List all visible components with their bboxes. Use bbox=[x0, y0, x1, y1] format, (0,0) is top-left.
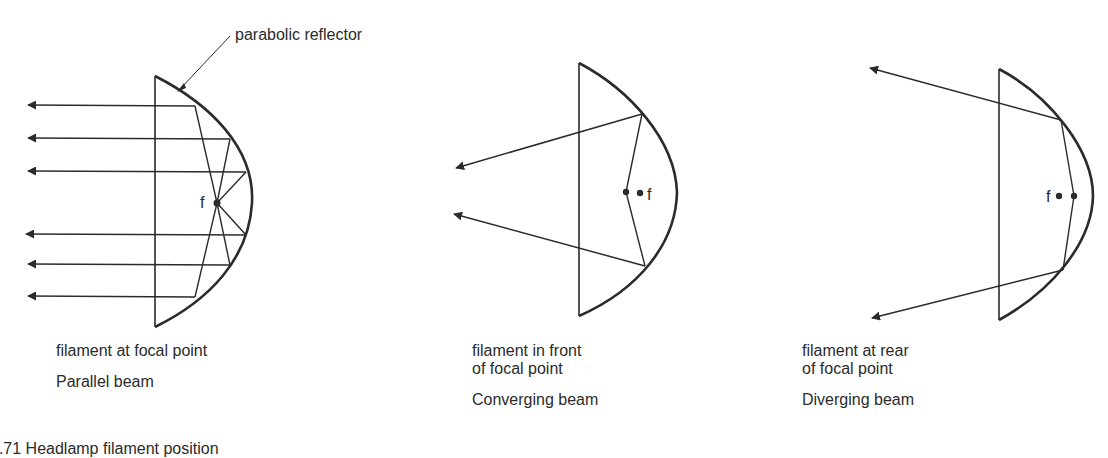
figure-caption: 5.71 Headlamp filament position bbox=[0, 440, 219, 458]
panel3-description-line2: of focal point bbox=[802, 359, 893, 378]
parabolic-reflector-2 bbox=[579, 63, 677, 316]
panel3-beam-type: Diverging beam bbox=[802, 390, 914, 409]
ray-upper-3 bbox=[870, 68, 1061, 120]
panel2-description-line1: filament in front bbox=[472, 341, 581, 360]
ray-3 bbox=[28, 171, 246, 172]
ray-5 bbox=[28, 264, 230, 265]
panel1-description: filament at focal point bbox=[56, 341, 207, 360]
focal-point-2 bbox=[637, 190, 643, 196]
ray-6 bbox=[28, 296, 195, 297]
panel-parallel-beam: f bbox=[26, 36, 252, 327]
ray-1 bbox=[28, 105, 195, 106]
focal-label-3: f bbox=[1046, 188, 1051, 205]
callout-pointer bbox=[181, 36, 230, 88]
filament-point-2 bbox=[623, 189, 629, 195]
ray-lower-3 bbox=[872, 270, 1063, 318]
focal-point-3 bbox=[1056, 193, 1062, 199]
panel2-beam-type: Converging beam bbox=[472, 390, 598, 409]
focal-label-1: f bbox=[200, 194, 205, 211]
ray-2 bbox=[28, 138, 230, 139]
filament-point-1 bbox=[214, 200, 221, 207]
panel2-description-line2: of focal point bbox=[472, 359, 563, 378]
panel-converging-beam: f bbox=[454, 63, 677, 316]
parabolic-reflector-label: parabolic reflector bbox=[235, 26, 362, 44]
panel1-beam-type: Parallel beam bbox=[56, 372, 154, 391]
filament-point-3 bbox=[1071, 193, 1077, 199]
ray-upper-2 bbox=[456, 114, 642, 168]
panel-diverging-beam: f bbox=[870, 68, 1093, 320]
focal-label-2: f bbox=[647, 186, 652, 203]
ray-lower-2 bbox=[454, 214, 645, 266]
panel3-description-line1: filament at rear bbox=[802, 341, 909, 360]
ray-4 bbox=[26, 234, 246, 235]
